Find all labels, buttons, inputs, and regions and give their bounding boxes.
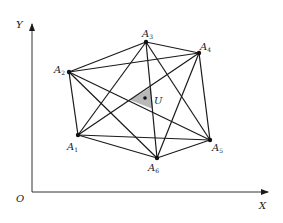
x-axis-label: X: [258, 200, 267, 211]
label-a5: A5: [211, 142, 223, 154]
y-axis-label: Y: [16, 19, 24, 30]
edge-a1-a2: [69, 72, 78, 135]
diagram-canvas: Y X O A1 A2: [0, 0, 283, 223]
edge-a3-a5: [146, 42, 210, 140]
point-a6: [155, 156, 159, 160]
edge-a3-a4: [146, 42, 199, 53]
edge-a1-a4: [78, 53, 199, 135]
edge-a2-a4: [69, 53, 199, 72]
label-a4: A4: [199, 41, 211, 53]
edge-a4-a5: [199, 53, 210, 140]
edge-a1-a3: [78, 42, 146, 135]
point-a2: [67, 70, 71, 74]
point-u: [143, 96, 147, 100]
origin-label: O: [16, 193, 24, 204]
point-a1: [76, 133, 80, 137]
point-a3: [144, 40, 148, 44]
label-a2: A2: [53, 64, 65, 76]
edge-a1-a5: [78, 135, 210, 140]
label-a6: A6: [147, 162, 159, 174]
label-a3: A3: [141, 28, 153, 40]
label-u: U: [154, 95, 163, 106]
edge-a5-a6: [157, 140, 210, 158]
edge-a2-a5: [69, 72, 210, 140]
label-a1: A1: [66, 141, 78, 153]
